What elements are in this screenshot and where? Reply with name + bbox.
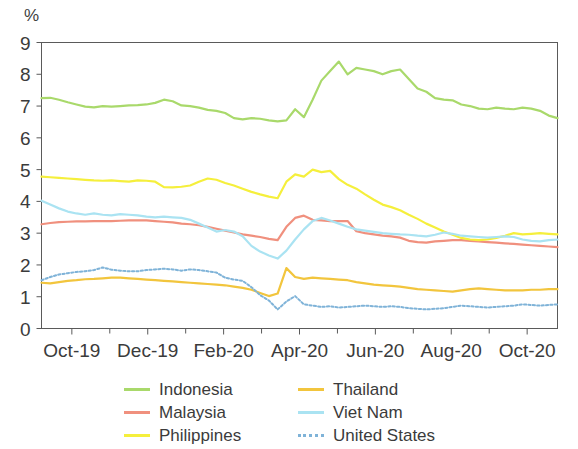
legend-label: Thailand: [333, 381, 398, 398]
line-chart-plot: 0123456789 Oct-19Dec-19Feb-20Apr-20Jun-2…: [0, 0, 578, 375]
series-line-malaysia: [42, 216, 558, 247]
y-tick-label: 5: [20, 160, 31, 181]
legend-label: Philippines: [159, 427, 241, 444]
chart-legend: IndonesiaThailandMalaysiaViet NamPhilipp…: [124, 378, 454, 447]
legend-item-thailand[interactable]: Thailand: [298, 378, 454, 401]
legend-label: Viet Nam: [333, 404, 403, 421]
y-tick-label: 1: [20, 287, 31, 308]
legend-swatch-icon: [124, 388, 150, 391]
y-axis-ticks: 0123456789: [20, 33, 42, 340]
x-tick-label: Oct-20: [499, 340, 556, 361]
series-line-indonesia: [42, 62, 558, 122]
x-tick-label: Apr-20: [271, 340, 328, 361]
y-tick-label: 0: [20, 319, 31, 340]
y-tick-label: 7: [20, 96, 31, 117]
series-line-thailand: [42, 268, 558, 296]
legend-label: United States: [333, 427, 435, 444]
y-tick-label: 6: [20, 128, 31, 149]
series-line-philippines: [42, 170, 558, 241]
x-tick-label: Feb-20: [194, 340, 254, 361]
chart-figure: % 0123456789 Oct-19Dec-19Feb-20Apr-20Jun…: [0, 0, 578, 449]
y-tick-label: 8: [20, 64, 31, 85]
legend-swatch-icon: [124, 411, 150, 414]
legend-item-united-states[interactable]: United States: [298, 424, 454, 447]
legend-item-viet-nam[interactable]: Viet Nam: [298, 401, 454, 424]
y-tick-label: 3: [20, 223, 31, 244]
legend-swatch-icon: [298, 434, 324, 437]
y-tick-label: 4: [20, 191, 31, 212]
x-tick-label: Oct-19: [43, 340, 100, 361]
y-tick-label: 9: [20, 33, 31, 54]
legend-item-philippines[interactable]: Philippines: [124, 424, 280, 447]
legend-swatch-icon: [298, 411, 324, 414]
data-series-group: [42, 62, 558, 310]
plot-frame: [42, 43, 558, 329]
legend-swatch-icon: [124, 434, 150, 437]
x-tick-label: Aug-20: [421, 340, 482, 361]
x-tick-label: Dec-19: [117, 340, 178, 361]
series-line-viet-nam: [42, 201, 558, 259]
x-axis-ticks: Oct-19Dec-19Feb-20Apr-20Jun-20Aug-20Oct-…: [43, 329, 555, 361]
legend-swatch-icon: [298, 388, 324, 391]
x-tick-label: Jun-20: [346, 340, 404, 361]
legend-label: Indonesia: [159, 381, 233, 398]
legend-label: Malaysia: [159, 404, 226, 421]
plot-border: [42, 43, 558, 329]
y-tick-label: 2: [20, 255, 31, 276]
legend-item-malaysia[interactable]: Malaysia: [124, 401, 280, 424]
legend-item-indonesia[interactable]: Indonesia: [124, 378, 280, 401]
